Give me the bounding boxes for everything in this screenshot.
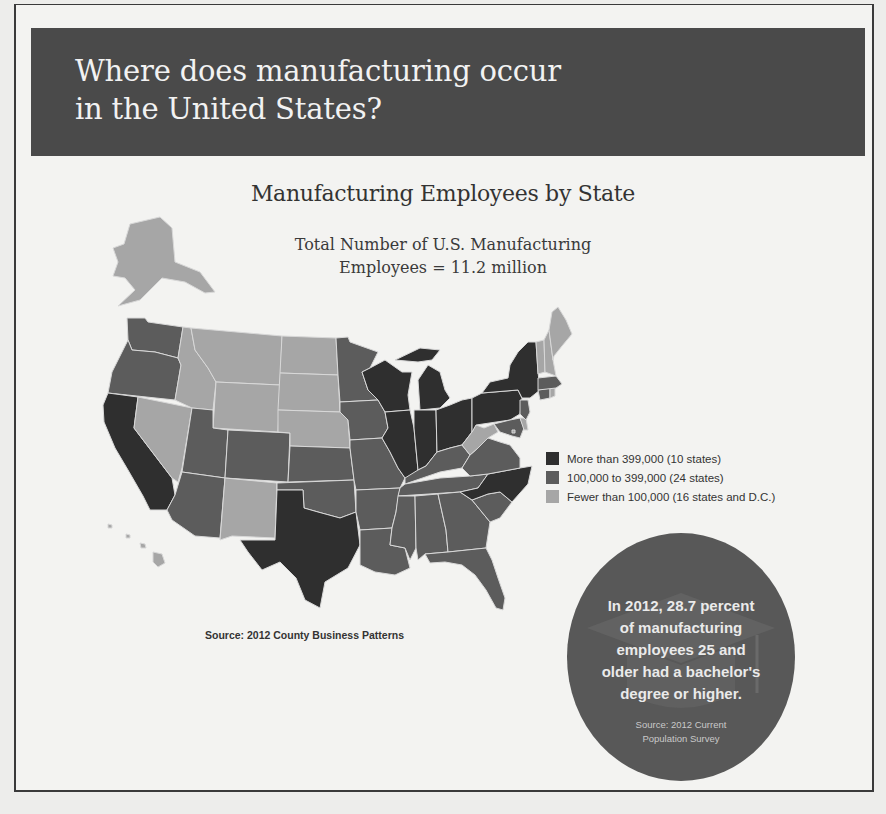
- legend-label: More than 399,000 (10 states): [567, 453, 721, 465]
- state-vt: [536, 340, 545, 374]
- state-wy: [213, 382, 280, 432]
- legend-label: Fewer than 100,000 (16 states and D.C.): [567, 491, 775, 503]
- state-sd: [278, 373, 340, 412]
- state-dc: [512, 430, 515, 433]
- map-legend: More than 399,000 (10 states) 100,000 to…: [546, 449, 775, 506]
- state-ma: [538, 376, 562, 390]
- state-co: [225, 430, 290, 482]
- state-az: [167, 472, 225, 538]
- bottom-caption-cropped: [0, 800, 886, 814]
- state-nd: [280, 336, 338, 375]
- state-ks: [288, 446, 354, 482]
- callout-source: Source: 2012 Current Population Survey: [567, 718, 795, 746]
- legend-swatch-medium: [546, 471, 559, 484]
- callout-statistic: In 2012, 28.7 percent of manufacturing e…: [567, 595, 795, 705]
- state-ak: [113, 217, 215, 306]
- state-fl: [425, 548, 505, 610]
- state-nm: [220, 478, 277, 540]
- state-hi: [108, 524, 165, 567]
- legend-item-high: More than 399,000 (10 states): [546, 449, 775, 468]
- state-ny: [482, 342, 540, 398]
- map-source: Source: 2012 County Business Patterns: [205, 629, 404, 641]
- education-callout: In 2012, 28.7 percent of manufacturing e…: [567, 533, 795, 781]
- state-ri: [550, 388, 555, 398]
- state-me: [549, 307, 572, 360]
- legend-swatch-low: [546, 490, 559, 503]
- legend-item-medium: 100,000 to 399,000 (24 states): [546, 468, 775, 487]
- legend-swatch-high: [546, 452, 559, 465]
- state-nj: [520, 400, 530, 420]
- legend-label: 100,000 to 399,000 (24 states): [567, 472, 724, 484]
- legend-item-low: Fewer than 100,000 (16 states and D.C.): [546, 487, 775, 506]
